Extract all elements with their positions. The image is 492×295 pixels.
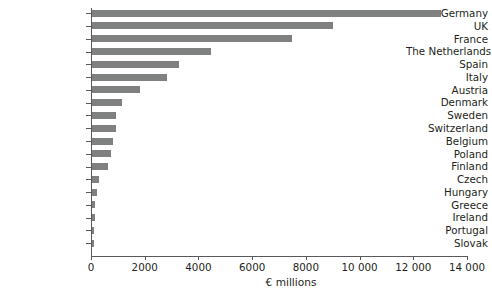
category-label: Sweden <box>406 110 492 120</box>
y-axis-tick <box>86 205 91 206</box>
y-axis-tick <box>86 26 91 27</box>
x-axis-tick <box>145 256 146 260</box>
y-axis-tick <box>86 128 91 129</box>
category-label: Finland <box>406 161 492 171</box>
y-axis-tick <box>86 64 91 65</box>
x-axis-tick <box>198 256 199 260</box>
y-axis-tick <box>86 115 91 116</box>
bar <box>92 125 116 132</box>
y-axis-tick <box>86 243 91 244</box>
y-axis-tick <box>86 90 91 91</box>
category-label: Czech <box>406 174 492 184</box>
category-label: France <box>406 34 492 44</box>
bar <box>92 35 292 42</box>
bar <box>92 214 95 221</box>
bar <box>92 201 95 208</box>
category-label: Switzerland <box>406 123 492 133</box>
category-label: Hungary <box>406 187 492 197</box>
bar <box>92 61 179 68</box>
x-axis-tick <box>306 256 307 260</box>
x-axis-tick-label: 12 000 <box>395 262 431 273</box>
category-label: Italy <box>406 72 492 82</box>
x-axis-title-text: € millions <box>176 276 317 288</box>
category-label: Greece <box>406 200 492 210</box>
bar <box>92 112 116 119</box>
x-axis-tick <box>91 256 92 260</box>
x-axis-tick-label: 10 000 <box>342 262 378 273</box>
x-axis-line <box>91 256 468 257</box>
category-label: Portugal <box>406 225 492 235</box>
y-axis-tick <box>86 39 91 40</box>
category-label: The Netherlands <box>406 46 492 56</box>
x-axis-tick <box>360 256 361 260</box>
y-axis-tick <box>86 13 91 14</box>
category-label: Slovak <box>406 238 492 248</box>
y-axis-tick <box>86 52 91 53</box>
y-axis-tick <box>86 192 91 193</box>
x-axis-tick-label: 2000 <box>132 262 158 273</box>
bar <box>92 138 113 145</box>
bar <box>92 74 167 81</box>
x-axis-tick-label: 0 <box>88 262 95 273</box>
y-axis-tick <box>86 154 91 155</box>
x-axis-tick <box>252 256 253 260</box>
category-label: UK <box>406 21 492 31</box>
bar <box>92 22 333 29</box>
category-label: Poland <box>406 149 492 159</box>
x-axis-tick-label: 4000 <box>185 262 211 273</box>
bar-chart: GermanyUKFranceThe NetherlandsSpainItaly… <box>0 0 492 295</box>
bar <box>92 240 94 247</box>
y-axis-tick <box>86 230 91 231</box>
x-axis-tick-label: 6000 <box>239 262 265 273</box>
y-axis-tick <box>86 218 91 219</box>
x-axis-tick-label: 8000 <box>293 262 319 273</box>
bar <box>92 48 211 55</box>
y-axis-tick <box>86 77 91 78</box>
bar <box>92 99 122 106</box>
category-label: Belgium <box>406 136 492 146</box>
y-axis-tick <box>86 103 91 104</box>
bar <box>92 176 99 183</box>
bar <box>92 163 108 170</box>
y-axis-tick <box>86 167 91 168</box>
category-label: Austria <box>406 85 492 95</box>
y-axis-tick <box>86 179 91 180</box>
y-axis-tick <box>86 141 91 142</box>
bar <box>92 86 140 93</box>
bar <box>92 189 97 196</box>
category-label: Ireland <box>406 212 492 222</box>
bar <box>92 10 441 17</box>
plot-area: GermanyUKFranceThe NetherlandsSpainItaly… <box>0 0 492 295</box>
x-axis-tick <box>413 256 414 260</box>
bar <box>92 227 94 234</box>
x-axis-title: € millions <box>0 276 492 288</box>
x-axis-tick-label: 14 000 <box>449 262 485 273</box>
bar <box>92 150 111 157</box>
category-label: Denmark <box>406 97 492 107</box>
category-label: Spain <box>406 59 492 69</box>
x-axis-tick <box>467 256 468 260</box>
